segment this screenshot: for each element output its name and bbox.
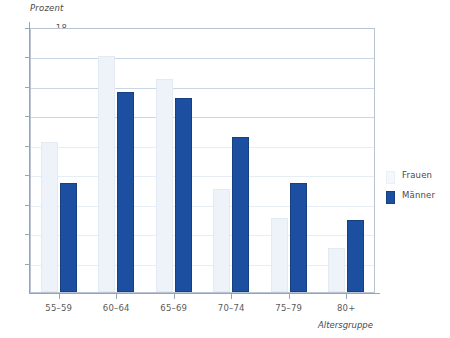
- x-axis-line: [30, 293, 380, 294]
- x-tick-label-80+: 80+: [316, 303, 376, 313]
- plot-area: [30, 28, 375, 293]
- maenner-swatch: [386, 191, 395, 204]
- x-tick-mark-75–79: [289, 294, 290, 299]
- x-tick-label-65–69: 65–69: [144, 303, 204, 313]
- bar-männer-75–79: [290, 183, 307, 292]
- bar-frauen-70–74: [213, 189, 230, 292]
- legend-item-frauen: Frauen: [386, 168, 448, 188]
- chart-legend: FrauenMänner: [386, 168, 448, 208]
- x-tick-label-70–74: 70–74: [201, 303, 261, 313]
- gridline-4: [31, 235, 374, 236]
- x-tick-mark-80+: [346, 294, 347, 299]
- x-tick-label-55–59: 55–59: [29, 303, 89, 313]
- gridline-2: [31, 265, 374, 266]
- x-tick-label-75–79: 75–79: [259, 303, 319, 313]
- x-tick-mark-60–64: [116, 294, 117, 299]
- legend-item-männer: Männer: [386, 188, 448, 208]
- bar-männer-65–69: [175, 98, 192, 292]
- bar-frauen-65–69: [156, 79, 173, 292]
- gridline-10: [31, 147, 374, 148]
- y-axis-title: Prozent: [30, 3, 64, 13]
- x-tick-mark-70–74: [231, 294, 232, 299]
- bar-männer-70–74: [232, 137, 249, 292]
- gridline-6: [31, 206, 374, 207]
- bar-frauen-60–64: [98, 56, 115, 292]
- bar-männer-80+: [347, 220, 364, 292]
- plot-inner: [31, 29, 374, 292]
- x-tick-label-60–64: 60–64: [86, 303, 146, 313]
- bar-männer-55–59: [60, 183, 77, 292]
- legend-label-männer: Männer: [402, 190, 435, 200]
- bar-männer-60–64: [117, 92, 134, 292]
- x-axis-title: Altersgruppe: [318, 320, 373, 330]
- x-tick-mark-55–59: [59, 294, 60, 299]
- gridline-8: [31, 176, 374, 177]
- gridline-12: [31, 117, 374, 118]
- bar-chart-figure: Prozent 24681012141618 55–5960–6465–6970…: [0, 0, 450, 338]
- gridline-14: [31, 88, 374, 89]
- bar-frauen-80+: [328, 248, 345, 292]
- legend-label-frauen: Frauen: [402, 170, 432, 180]
- gridline-16: [31, 58, 374, 59]
- bar-frauen-55–59: [41, 142, 58, 292]
- frauen-swatch: [386, 171, 395, 184]
- x-tick-mark-65–69: [174, 294, 175, 299]
- bar-frauen-75–79: [271, 218, 288, 292]
